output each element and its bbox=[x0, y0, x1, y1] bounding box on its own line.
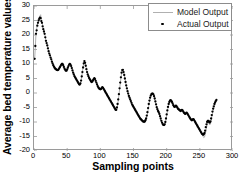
legend-label-actual: Actual Output bbox=[175, 18, 229, 30]
x-tick-label: 250 bbox=[186, 152, 212, 160]
legend-dot-swatch-icon bbox=[151, 18, 175, 30]
x-tick-label: 200 bbox=[153, 152, 179, 160]
chart-figure: Average bed temperature values 302520151… bbox=[0, 0, 243, 177]
x-tick-label: 300 bbox=[219, 152, 243, 160]
model-output-line bbox=[35, 15, 217, 138]
legend-line-swatch-icon bbox=[151, 6, 175, 18]
x-tick-label: 50 bbox=[53, 152, 79, 160]
x-tick-label: 0 bbox=[20, 152, 46, 160]
x-tick-label: 100 bbox=[86, 152, 112, 160]
legend-item-model: Model Output bbox=[149, 6, 231, 18]
x-tick-label: 150 bbox=[120, 152, 146, 160]
legend-label-model: Model Output bbox=[175, 6, 228, 18]
x-axis-label: Sampling points bbox=[33, 160, 233, 172]
chart-legend: Model Output Actual Output bbox=[148, 3, 232, 31]
y-axis-label: Average bed temperature values bbox=[0, 5, 14, 155]
legend-item-actual: Actual Output bbox=[149, 18, 231, 30]
